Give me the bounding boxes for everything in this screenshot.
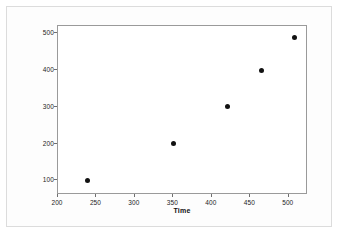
x-tick-mark — [57, 194, 58, 197]
x-tick-label: 400 — [205, 199, 216, 206]
x-tick-label: 200 — [51, 199, 62, 206]
y-tick-mark — [54, 179, 57, 180]
scatter-plot-figure: 100200300400500 200250300350400450500 Ti… — [0, 0, 338, 233]
y-tick-label: 100 — [43, 176, 54, 183]
y-tick-mark — [54, 106, 57, 107]
x-tick-mark — [134, 194, 135, 197]
y-tick-mark — [54, 69, 57, 70]
data-point — [259, 68, 264, 73]
x-tick-mark — [288, 194, 289, 197]
x-tick-label: 300 — [128, 199, 139, 206]
x-tick-label: 350 — [167, 199, 178, 206]
x-tick-label: 450 — [244, 199, 255, 206]
x-tick-mark — [211, 194, 212, 197]
x-tick-label: 500 — [282, 199, 293, 206]
x-tick-mark — [172, 194, 173, 197]
y-axis-tick-marks — [54, 25, 57, 194]
y-tick-label: 500 — [43, 29, 54, 36]
x-tick-label: 250 — [90, 199, 101, 206]
y-tick-label: 300 — [43, 102, 54, 109]
data-point — [292, 35, 297, 40]
y-tick-label: 200 — [43, 139, 54, 146]
data-point — [225, 104, 230, 109]
x-tick-mark — [249, 194, 250, 197]
data-point — [85, 178, 90, 183]
x-axis-tick-marks — [57, 194, 307, 197]
y-axis-tick-labels: 100200300400500 — [30, 25, 54, 194]
plot-area — [57, 25, 307, 194]
y-tick-mark — [54, 143, 57, 144]
data-point — [171, 141, 176, 146]
x-tick-mark — [95, 194, 96, 197]
y-tick-mark — [54, 32, 57, 33]
x-axis-title: Time — [57, 207, 307, 214]
y-tick-label: 400 — [43, 66, 54, 73]
